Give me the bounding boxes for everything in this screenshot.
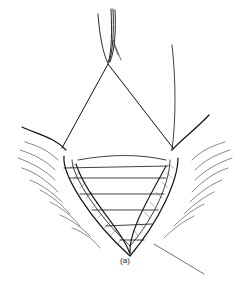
figure-caption: (a) (113, 256, 137, 265)
traction-sutures (62, 64, 173, 148)
central-suture-loop (76, 164, 166, 254)
skin-folds (22, 115, 209, 150)
skin-hatching-right (164, 142, 232, 238)
skin-hatching-left (18, 142, 100, 248)
loose-thread (172, 45, 175, 150)
suture-threads (98, 9, 121, 63)
surgical-illustration (0, 0, 246, 288)
pointer-line (154, 244, 204, 274)
wound (64, 156, 178, 256)
